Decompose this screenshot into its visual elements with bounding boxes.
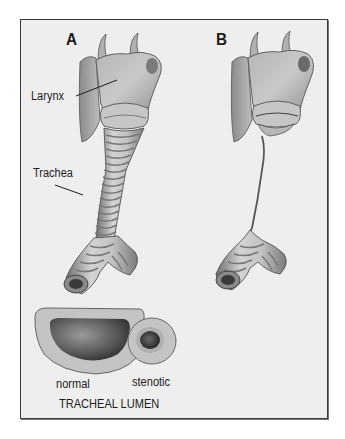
larynx-label: Larynx bbox=[31, 90, 64, 103]
trachea-label: Trachea bbox=[33, 167, 73, 180]
panel-label-a: A bbox=[66, 31, 77, 48]
panel-label-b: B bbox=[216, 31, 227, 48]
trachea-leader-line bbox=[55, 185, 83, 195]
stenotic-lumen-label: stenotic bbox=[132, 375, 170, 388]
normal-lumen-label: normal bbox=[56, 377, 90, 390]
panel-a-illustration bbox=[64, 33, 161, 294]
stenotic-lumen-cross-section bbox=[128, 318, 176, 364]
panel-b-illustration bbox=[216, 31, 314, 290]
anatomy-illustration bbox=[0, 0, 345, 439]
lumen-caption: TRACHEAL LUMEN bbox=[59, 397, 159, 410]
